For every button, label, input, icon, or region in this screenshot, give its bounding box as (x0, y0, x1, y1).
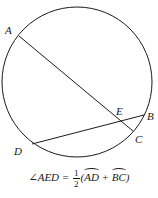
label-e: E (115, 105, 123, 117)
fraction-numerator: 1 (73, 168, 80, 179)
formula-close-paren: ) (126, 171, 130, 183)
label-a: A (4, 24, 12, 36)
formula-angle: ∠AED (28, 171, 59, 183)
formula-plus: + (99, 171, 112, 183)
label-b: B (147, 110, 154, 122)
angle-formula: ∠AED = 12(AD + BC) (0, 168, 158, 189)
formula-equals: = (59, 171, 72, 183)
label-c: C (135, 133, 143, 145)
arc-bc: BC (112, 171, 126, 183)
fraction-denominator: 2 (73, 179, 80, 189)
circle (2, 7, 152, 157)
arc-ad: AD (84, 171, 99, 183)
label-d: D (13, 145, 22, 157)
fraction-half: 12 (73, 168, 80, 189)
chord-db (32, 115, 144, 144)
